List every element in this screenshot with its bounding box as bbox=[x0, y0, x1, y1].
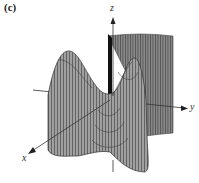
x-axis-arrow-icon bbox=[28, 147, 36, 154]
x-axis-label: x bbox=[22, 152, 26, 163]
z-axis-label: z bbox=[110, 2, 114, 13]
surface-dark-edge bbox=[108, 34, 112, 98]
y-axis-arrow-icon bbox=[181, 106, 188, 112]
surface-main bbox=[48, 51, 148, 172]
y-axis-label: y bbox=[190, 101, 194, 112]
z-axis-arrow-icon bbox=[111, 17, 116, 24]
surface-plot bbox=[0, 0, 199, 183]
